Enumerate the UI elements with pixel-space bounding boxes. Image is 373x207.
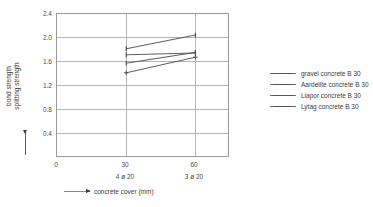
chart-container: 2.4 2.0 1.6 1.2 0.8 0.4 bond strength sp… xyxy=(0,0,373,207)
x-axis-title: concrete cover (mm) xyxy=(94,188,154,195)
x-axis-title-group: concrete cover (mm) xyxy=(64,188,154,195)
y-axis-title-line1: bond strength xyxy=(5,47,13,125)
y-tick-label: 1.2 xyxy=(43,82,52,89)
legend-item[interactable]: –– Liapor concrete B 30 xyxy=(270,90,370,101)
legend-item[interactable]: –– Aardelite concrete B 30 xyxy=(270,79,370,90)
series-line xyxy=(126,35,195,49)
legend-item-label: Aardelite concrete B 30 xyxy=(301,80,369,89)
x-axis-arrow-icon xyxy=(64,191,90,192)
plot-area xyxy=(56,13,229,157)
y-tick-label: 1.6 xyxy=(43,58,52,65)
y-tick-label: 0.8 xyxy=(43,106,52,113)
y-tick-label: 2.4 xyxy=(43,10,52,17)
y-axis-title-line2: splitting strength xyxy=(13,47,21,125)
series-layer xyxy=(57,14,230,158)
x-tick-label: 0 xyxy=(36,161,76,169)
y-tick-label: 2.0 xyxy=(43,34,52,41)
legend-item[interactable]: –– gravel concrete B 30 xyxy=(270,68,370,79)
legend-item[interactable]: ++ Lytag concrete B 30 xyxy=(270,101,370,112)
y-axis-arrow-icon xyxy=(25,131,26,155)
y-tick-label: 0.4 xyxy=(43,130,52,137)
legend-item-label: Liapor concrete B 30 xyxy=(301,91,361,100)
y-axis-tick-labels: 2.4 2.0 1.6 1.2 0.8 0.4 xyxy=(28,13,52,157)
legend-marker-icon: –– xyxy=(270,69,296,78)
x-sub-label: 3 ø 20 xyxy=(174,173,214,181)
legend-item-label: Lytag concrete B 30 xyxy=(301,102,359,111)
legend-marker-icon: –– xyxy=(270,91,296,100)
legend-marker-icon: ++ xyxy=(270,102,296,111)
x-sub-label: 4 ø 20 xyxy=(105,173,145,181)
y-axis-title: bond strength splitting strength xyxy=(5,47,21,125)
legend-item-label: gravel concrete B 30 xyxy=(301,69,361,78)
legend: –– gravel concrete B 30 –– Aardelite con… xyxy=(270,68,370,112)
x-tick-label: 60 xyxy=(174,161,214,169)
legend-marker-icon: –– xyxy=(270,80,296,89)
series-line xyxy=(126,57,195,73)
x-tick-label: 30 xyxy=(105,161,145,169)
